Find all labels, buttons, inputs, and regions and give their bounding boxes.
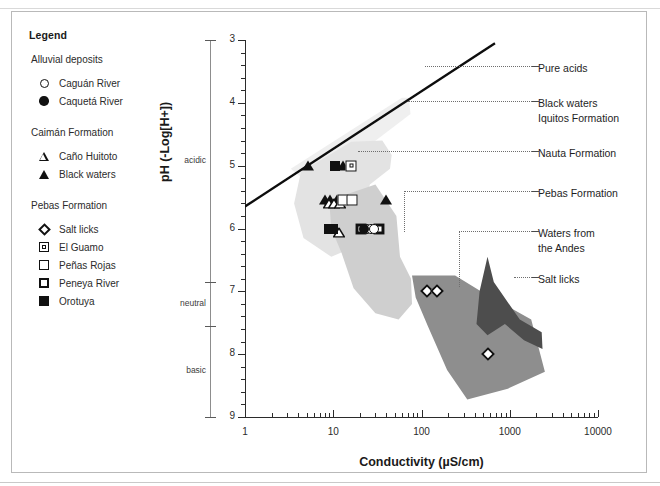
leader-line-cap — [532, 191, 539, 192]
callout-line: Pebas Formation — [538, 186, 618, 201]
legend-item-label: Caguán River — [59, 78, 120, 89]
x-axis-minor-tick — [464, 413, 465, 418]
leader-line — [408, 101, 532, 102]
legend-item[interactable]: Caquetá River — [29, 92, 179, 110]
ph-zone-bar — [210, 326, 211, 417]
y-axis-minor-tick — [241, 342, 246, 343]
y-axis-tick-label: 9 — [229, 410, 235, 421]
legend-item-label: Peneya River — [59, 278, 119, 289]
x-axis-minor-tick — [325, 413, 326, 418]
x-axis-minor-tick — [496, 413, 497, 418]
y-axis-title: pH (-Log[H+]) — [158, 102, 172, 182]
x-axis-line — [245, 417, 598, 418]
legend-item-label: Caquetá River — [59, 96, 123, 107]
leader-line — [425, 66, 532, 67]
chart-page: Legend Alluvial depositsCaguán RiverCaqu… — [0, 0, 660, 486]
legend-item[interactable]: Black waters — [29, 165, 179, 183]
legend-group: Caimán FormationCaño HuitotoBlack waters — [29, 127, 179, 183]
y-axis-major-tick — [238, 103, 245, 104]
y-axis-tick-label: 4 — [229, 96, 235, 107]
ph-zone-tick — [205, 40, 216, 41]
legend-item[interactable]: Caguán River — [29, 74, 179, 92]
y-axis-minor-tick — [241, 241, 246, 242]
y-axis-minor-tick — [241, 141, 246, 142]
callout-line: the Andes — [538, 241, 595, 256]
leader-line-vertical — [404, 191, 405, 232]
y-axis-minor-tick — [241, 316, 246, 317]
square-open-icon — [29, 260, 59, 270]
callout-pure-acids: Pure acids — [538, 61, 588, 76]
legend-item[interactable]: El Guamo — [29, 238, 179, 256]
x-axis-minor-tick — [536, 413, 537, 418]
legend-group-title: Caimán Formation — [31, 127, 179, 138]
callout-line: Salt licks — [538, 272, 579, 287]
x-axis-tick-label: 100 — [413, 426, 430, 437]
leader-line-vertical — [459, 231, 460, 287]
x-axis-minor-tick — [375, 413, 376, 418]
leader-line-cap — [532, 151, 539, 152]
data-point-square-filled[interactable] — [330, 161, 340, 171]
x-axis-minor-tick — [272, 413, 273, 418]
leader-line-cap — [532, 231, 539, 232]
leader-line — [358, 151, 532, 152]
y-axis-tick-label: 5 — [229, 159, 235, 170]
legend-item[interactable]: Peneya River — [29, 274, 179, 292]
legend-item[interactable]: Orotuya — [29, 292, 179, 310]
callout-pebas-formation: Pebas Formation — [538, 186, 618, 201]
page-bottom-rule — [0, 482, 660, 483]
legend-item[interactable]: Salt licks — [29, 220, 179, 238]
y-axis-tick-label: 8 — [229, 347, 235, 358]
data-point-square-dotted[interactable] — [346, 160, 357, 171]
ph-zone-label-acidic: acidic — [168, 155, 206, 165]
x-axis-minor-tick — [552, 413, 553, 418]
legend-item[interactable]: Peñas Rojas — [29, 256, 179, 274]
x-axis-minor-tick — [329, 413, 330, 418]
legend-title: Legend — [29, 29, 179, 41]
x-axis-minor-tick — [298, 413, 299, 418]
ph-zone-bar — [210, 282, 211, 326]
data-point-circle-filled[interactable] — [359, 224, 369, 234]
x-axis-minor-tick — [571, 413, 572, 418]
x-axis-minor-tick — [417, 413, 418, 418]
data-point-square-open[interactable] — [347, 195, 358, 206]
x-axis-minor-tick — [287, 413, 288, 418]
legend-group-title: Alluvial deposits — [31, 54, 179, 65]
x-axis-major-tick — [333, 410, 334, 417]
x-axis-minor-tick — [314, 413, 315, 418]
x-axis-minor-tick — [584, 413, 585, 418]
data-point-circle-open[interactable] — [369, 224, 379, 234]
y-axis-major-tick — [238, 291, 245, 292]
callout-line: Iquitos Formation — [538, 111, 619, 126]
y-axis-major-tick — [238, 417, 245, 418]
x-axis-tick-label: 10 — [328, 426, 339, 437]
leader-line-cap — [532, 66, 539, 67]
x-axis-major-tick — [598, 410, 599, 417]
leader-line — [514, 277, 532, 278]
ph-zone-tick — [205, 326, 216, 327]
legend-item-label: Peñas Rojas — [59, 260, 116, 271]
x-axis-minor-tick — [589, 413, 590, 418]
y-axis-minor-tick — [241, 178, 246, 179]
y-axis-minor-tick — [241, 65, 246, 66]
y-axis-minor-tick — [241, 203, 246, 204]
ph-zone-tick — [205, 282, 216, 283]
x-axis-tick-label: 1 — [242, 426, 248, 437]
y-axis-major-tick — [238, 229, 245, 230]
square-thick-icon — [29, 278, 59, 288]
x-axis-minor-tick — [501, 413, 502, 418]
y-axis-minor-tick — [241, 254, 246, 255]
triangle-open-icon — [29, 152, 59, 161]
y-axis-minor-tick — [241, 304, 246, 305]
callout-waters-from-the-andes: Waters fromthe Andes — [538, 226, 595, 255]
data-point-triangle-filled[interactable] — [302, 160, 314, 170]
square-filled-icon — [29, 296, 59, 306]
legend-groups: Alluvial depositsCaguán RiverCaquetá Riv… — [29, 54, 179, 310]
y-axis-major-tick — [238, 166, 245, 167]
legend-item-label: El Guamo — [59, 242, 103, 253]
legend-item[interactable]: Caño Huitoto — [29, 147, 179, 165]
leader-line — [404, 191, 532, 192]
data-point-triangle-filled[interactable] — [380, 195, 392, 205]
data-point-square-filled[interactable] — [328, 224, 338, 234]
legend-item-label: Orotuya — [59, 296, 95, 307]
callout-black-waters-iquitos: Black watersIquitos Formation — [538, 96, 619, 125]
